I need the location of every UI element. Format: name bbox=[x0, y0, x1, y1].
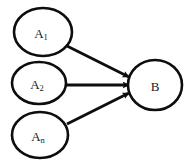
graph-diagram: A1 A2 An B bbox=[0, 0, 189, 167]
diagram-canvas: A1 A2 An B bbox=[0, 0, 189, 167]
node-b-label-base: B bbox=[151, 79, 160, 94]
node-a2: A2 bbox=[12, 62, 66, 104]
node-a1-label-subscript: 1 bbox=[44, 32, 48, 42]
edge-a1-to-b bbox=[67, 46, 129, 77]
node-b-label: B bbox=[151, 79, 160, 94]
node-a2-label-subscript: 2 bbox=[40, 83, 44, 93]
edge-group bbox=[66, 46, 129, 124]
node-a1: A1 bbox=[14, 8, 72, 56]
edge-an-to-b bbox=[67, 93, 129, 124]
node-an-label-subscript: n bbox=[41, 135, 46, 145]
node-b: B bbox=[128, 60, 182, 110]
node-an: An bbox=[12, 112, 68, 158]
